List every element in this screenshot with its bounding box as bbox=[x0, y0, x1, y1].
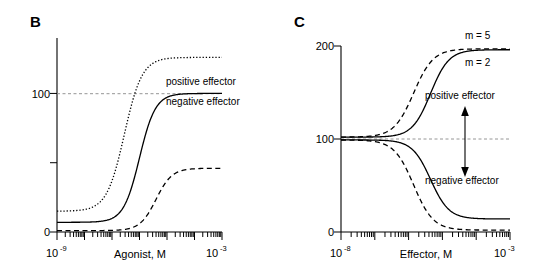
panel-c-m2-label: m = 2 bbox=[465, 57, 491, 68]
panel-c-curves bbox=[341, 49, 510, 230]
panel-c-xtick-max-exp: -3 bbox=[508, 244, 515, 253]
panel-c-xtick-label-max: 10 -3 bbox=[494, 244, 515, 259]
panel-b-xtick-min-base: 10 bbox=[46, 247, 58, 259]
panel-b-negative-effector-label: negative effector bbox=[166, 96, 240, 107]
panel-b-x-ticks bbox=[57, 232, 222, 240]
arrow-up-head bbox=[461, 106, 469, 116]
panel-c-positive-effector-label: positive effector bbox=[425, 90, 496, 101]
panel-c: C 200 100 0 10 -8 10 -3 Effector, M m = bbox=[294, 13, 515, 260]
panel-c-m5-label: m = 5 bbox=[465, 30, 491, 41]
panel-c-ytick-label-200: 200 bbox=[316, 40, 334, 52]
panel-b-y-ticks bbox=[50, 93, 57, 232]
panel-b-xtick-min-exp: -9 bbox=[60, 244, 67, 253]
effector-direction-arrow bbox=[461, 106, 469, 177]
panel-b-xtick-max-exp: -3 bbox=[220, 244, 227, 253]
panel-b-xtick-label-min: 10 -9 bbox=[46, 244, 67, 259]
panel-c-y-ticks bbox=[334, 46, 341, 232]
curve-negative-effector bbox=[57, 168, 222, 230]
panel-b-ytick-label-0: 0 bbox=[44, 226, 50, 238]
panel-c-x-ticks bbox=[341, 232, 510, 240]
figure-svg: B 100 0 10 -9 10 -3 Agonist, M bbox=[0, 0, 541, 271]
curve-control bbox=[57, 93, 222, 222]
panel-c-xtick-min-base: 10 bbox=[330, 247, 342, 259]
panel-c-xtick-min-exp: -8 bbox=[344, 244, 351, 253]
panel-b-x-axis-title: Agonist, M bbox=[114, 248, 166, 260]
panel-b: B 100 0 10 -9 10 -3 Agonist, M bbox=[30, 13, 240, 260]
panel-c-ytick-label-100: 100 bbox=[316, 133, 334, 145]
panel-c-x-axis-title: Effector, M bbox=[400, 248, 452, 260]
panel-c-xtick-label-min: 10 -8 bbox=[330, 244, 351, 259]
panel-b-letter: B bbox=[30, 13, 41, 30]
panel-c-negative-effector-label: negative effector bbox=[425, 175, 499, 186]
panel-b-ytick-label-100: 100 bbox=[32, 88, 50, 100]
figure-container: B 100 0 10 -9 10 -3 Agonist, M bbox=[0, 0, 541, 271]
panel-c-xtick-max-base: 10 bbox=[494, 247, 506, 259]
panel-b-xtick-label-max: 10 -3 bbox=[206, 244, 227, 259]
panel-b-positive-effector-label: positive effector bbox=[166, 76, 237, 87]
panel-c-letter: C bbox=[294, 13, 305, 30]
panel-b-xtick-max-base: 10 bbox=[206, 247, 218, 259]
panel-c-ytick-label-0: 0 bbox=[328, 226, 334, 238]
